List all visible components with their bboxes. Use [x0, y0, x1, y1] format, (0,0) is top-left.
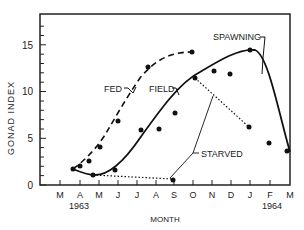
x-tick-jul-1963: J [135, 190, 140, 200]
field-curve [73, 50, 290, 175]
y-axis-ticks [40, 26, 46, 185]
x-tick-jan-1964: J [248, 190, 253, 200]
gonad-index-chart: 0 5 10 15 GONAD INDEX M A M J J A S O N … [0, 0, 304, 230]
starved-leader-upper [193, 96, 213, 153]
x-tick-mar-1964: M [286, 190, 294, 200]
starved-leader-lower [170, 153, 193, 178]
annotation-spawning: SPAWNING [213, 32, 261, 42]
starved-segment-1 [93, 175, 173, 179]
starved-segment-2 [195, 78, 249, 127]
y-axis-label: GONAD INDEX [6, 81, 16, 155]
x-tick-apr-1963: A [77, 190, 83, 200]
y-tick-10: 10 [22, 86, 34, 97]
x-tick-mar-1963: M [56, 190, 64, 200]
x-tick-feb-1964: F [267, 190, 273, 200]
x-tick-nov-1963: N [209, 190, 216, 200]
annotation-starved: STARVED [201, 149, 243, 159]
x-tick-aug-1963: A [153, 190, 159, 200]
y-tick-0: 0 [27, 180, 33, 191]
annotation-fed: FED [104, 84, 123, 94]
x-tick-may-1963: M [95, 190, 103, 200]
data-points [71, 48, 290, 183]
x-tick-oct-1963: O [189, 190, 196, 200]
x-tick-dec-1963: D [228, 190, 235, 200]
x-axis-label: MONTH [150, 215, 180, 224]
y-tick-15: 15 [22, 40, 34, 51]
fed-curve [73, 52, 192, 169]
annotation-field: FIELD [149, 84, 175, 94]
y-tick-5: 5 [27, 133, 33, 144]
x-tick-jun-1963: J [116, 190, 121, 200]
x-tick-sep-1963: S [171, 190, 177, 200]
year-label-1964: 1964 [262, 201, 282, 211]
year-label-1963: 1963 [69, 201, 89, 211]
